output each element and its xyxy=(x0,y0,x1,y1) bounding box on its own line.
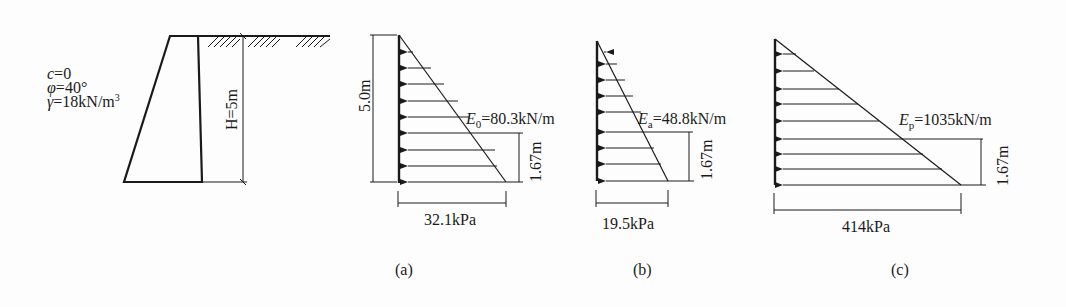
diagram-b-base-label: 19.5kPa xyxy=(602,215,654,232)
diagram-c-base-label: 414kPa xyxy=(842,218,890,235)
wall-height-label: H=5m xyxy=(223,88,240,130)
diagram-b-force-label: Ea=48.8kN/m xyxy=(637,110,727,130)
diagram-a-force-label: E0=80.3kN/m xyxy=(465,110,555,130)
diagram-a-base-label: 32.1kPa xyxy=(424,211,476,228)
diagram-b-arm-label: 1.67m xyxy=(698,139,715,180)
ground-hatching xyxy=(208,37,330,47)
diagram-b-caption: (b) xyxy=(633,261,652,279)
diagram-a-arm-label: 1.67m xyxy=(527,141,544,182)
param-gamma: γ=18kN/m3 xyxy=(47,92,120,111)
diagram-a-height-label: 5.0m xyxy=(356,79,373,112)
diagram-c-arm-label: 1.67m xyxy=(994,145,1011,186)
diagram-a-caption: (a) xyxy=(395,261,413,279)
earth-pressure-figure: c=0 φ=40° γ=18kN/m3 H=5m 5.0m E0=80.3 xyxy=(0,0,1066,307)
diagram-c-force-label: Ep=1035kN/m xyxy=(898,111,992,131)
diagram-c-caption: (c) xyxy=(891,261,909,279)
